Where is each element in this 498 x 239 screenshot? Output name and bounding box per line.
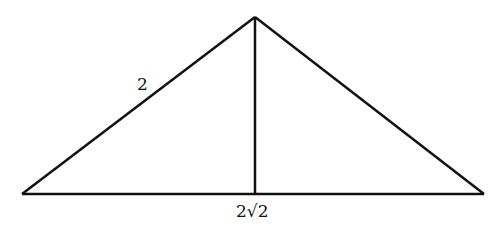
left-side (22, 17, 255, 194)
base-label-text: 2√2 (236, 201, 268, 221)
left-side-label: 2 (137, 76, 148, 93)
base-label: 2√2 (236, 203, 268, 220)
triangle-diagram: 2 2√2 (0, 0, 498, 239)
right-side (255, 17, 484, 194)
